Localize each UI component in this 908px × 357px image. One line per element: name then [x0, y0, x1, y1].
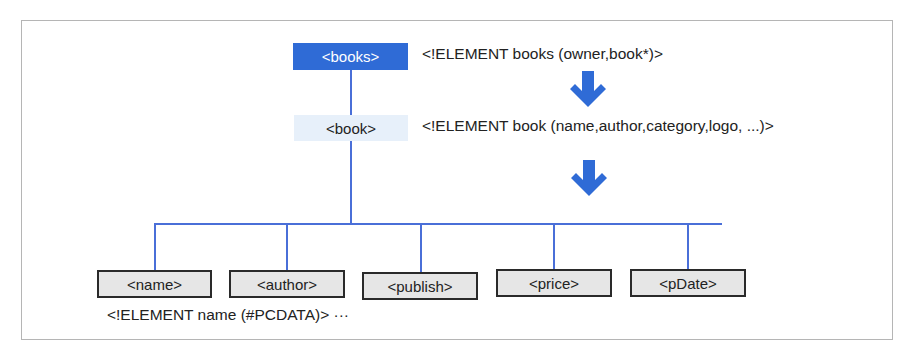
down-arrow-icon	[570, 71, 606, 108]
node-price: <price>	[496, 269, 612, 297]
connector-drop-price	[553, 223, 555, 269]
connector-drop-publish	[420, 223, 422, 272]
node-pdate: <pDate>	[630, 269, 746, 297]
declaration-name: <!ELEMENT name (#PCDATA)> ···	[107, 306, 349, 324]
down-arrow-icon	[571, 160, 607, 197]
node-book: <book>	[294, 115, 408, 141]
connector-book-to-bus	[350, 141, 352, 225]
declaration-books: <!ELEMENT books (owner,book*)>	[422, 45, 663, 63]
connector-bus	[154, 223, 722, 225]
node-publish: <publish>	[362, 272, 478, 300]
connector-drop-name	[154, 223, 156, 270]
node-author: <author>	[229, 270, 345, 298]
node-name: <name>	[97, 270, 212, 298]
connector-drop-author	[286, 223, 288, 270]
declaration-book: <!ELEMENT book (name,author,category,log…	[422, 117, 774, 135]
node-books: <books>	[293, 43, 408, 70]
connector-drop-pdate	[687, 223, 689, 269]
connector-root-to-book	[350, 70, 352, 115]
